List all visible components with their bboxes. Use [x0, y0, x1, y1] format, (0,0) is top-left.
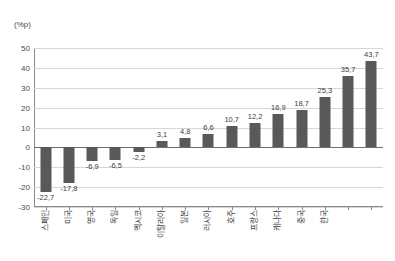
y-axis-tick-label: -30 [4, 203, 30, 212]
category-label-slot [336, 209, 359, 259]
bar-value-label: -6,5 [109, 161, 122, 170]
x-axis-category-label: 미국 [65, 210, 73, 224]
y-axis-tick-label: 30 [4, 83, 30, 92]
x-axis-category-label: 캐나다 [274, 210, 282, 231]
bar-slot[interactable]: 16,9 [267, 48, 290, 207]
bar-slot[interactable]: 18,7 [290, 48, 313, 207]
x-axis-category-label: 한국 [321, 210, 329, 224]
bar-value-label: 12,2 [248, 112, 263, 121]
category-label-slot: 독일 [104, 209, 127, 259]
bar[interactable] [180, 138, 191, 148]
y-axis-tick-label: 20 [4, 103, 30, 112]
bar[interactable] [226, 126, 237, 147]
bar[interactable] [63, 147, 74, 182]
x-axis-category-label: 호주 [228, 210, 236, 224]
bar-slot[interactable]: 35,7 [336, 48, 359, 207]
bar-slot[interactable]: 10,7 [220, 48, 243, 207]
bar-value-label: 10,7 [224, 115, 239, 124]
category-label-slot: 중국 [290, 209, 313, 259]
bar[interactable] [110, 147, 121, 160]
category-label-slot: 한국 [313, 209, 336, 259]
bar-slot[interactable]: -6,5 [104, 48, 127, 207]
y-axis-tick-label: 40 [4, 63, 30, 72]
x-axis-category-label: 러시아 [204, 210, 212, 231]
bar[interactable] [156, 141, 167, 147]
bar-slot[interactable]: -2,2 [127, 48, 150, 207]
bar[interactable] [273, 114, 284, 148]
category-label-slot: 영국 [81, 209, 104, 259]
bar[interactable] [366, 61, 377, 148]
bar-value-label: -17,8 [60, 184, 77, 193]
category-label-slot: 스페인 [34, 209, 57, 259]
x-axis-category-label: 영국 [88, 210, 96, 224]
bar-value-label: 43,7 [364, 50, 379, 59]
bar[interactable] [87, 147, 98, 161]
category-label-slot: 호주 [220, 209, 243, 259]
category-label-slot: 일본 [174, 209, 197, 259]
category-label-slot: 멕시코 [127, 209, 150, 259]
bar-chart: (%p) 50403020100-10-20-30 -22,7-17,8-6,9… [0, 0, 395, 261]
bar[interactable] [40, 147, 51, 192]
category-label-slot: 프랑스 [243, 209, 266, 259]
bar-slot[interactable]: -17,8 [57, 48, 80, 207]
x-axis-category-labels: 스페인미국영국독일멕시코이탈리아일본러시아호주프랑스캐나다중국한국 [34, 209, 383, 259]
bar-slot[interactable]: 12,2 [243, 48, 266, 207]
category-label-slot: 미국 [57, 209, 80, 259]
bar-value-label: 25,3 [318, 86, 333, 95]
bar-value-label: 4,8 [180, 127, 190, 136]
bar[interactable] [133, 147, 144, 151]
bar[interactable] [250, 123, 261, 147]
bar-value-label: -6,9 [86, 162, 99, 171]
y-axis-tick-label: 0 [4, 143, 30, 152]
bar[interactable] [296, 110, 307, 147]
bar-slot[interactable]: 4,8 [174, 48, 197, 207]
bar-slot[interactable]: 3,1 [150, 48, 173, 207]
bar-value-label: 16,9 [271, 103, 286, 112]
plot-area: 50403020100-10-20-30 -22,7-17,8-6,9-6,5-… [34, 48, 383, 207]
category-label-slot: 이탈리아 [150, 209, 173, 259]
bar-slot[interactable]: 6,6 [197, 48, 220, 207]
category-label-slot [360, 209, 383, 259]
bar-slot[interactable]: -6,9 [81, 48, 104, 207]
category-label-slot: 캐나다 [267, 209, 290, 259]
bar[interactable] [203, 134, 214, 147]
category-label-slot: 러시아 [197, 209, 220, 259]
bars-layer: -22,7-17,8-6,9-6,5-2,23,14,86,610,712,21… [34, 48, 383, 207]
y-axis-unit-caption: (%p) [14, 20, 31, 29]
bar[interactable] [319, 97, 330, 147]
bar-value-label: 18,7 [294, 99, 309, 108]
x-axis-category-label: 멕시코 [135, 210, 143, 231]
y-axis-tick-label: -20 [4, 183, 30, 192]
x-axis-category-label: 스페인 [42, 210, 50, 231]
bar-value-label: 6,6 [203, 123, 213, 132]
bar-value-label: 35,7 [341, 65, 356, 74]
x-axis-category-label: 독일 [111, 210, 119, 224]
bar-value-label: -2,2 [132, 153, 145, 162]
bar-value-label: -22,7 [37, 193, 54, 202]
bar-slot[interactable]: -22,7 [34, 48, 57, 207]
x-axis-category-label: 일본 [181, 210, 189, 224]
y-axis-tick-label: -10 [4, 163, 30, 172]
bar[interactable] [343, 76, 354, 147]
x-axis-category-label: 이탈리아 [158, 210, 166, 238]
y-axis-tick-label: 50 [4, 44, 30, 53]
bar-value-label: 3,1 [157, 130, 167, 139]
x-axis-category-label: 프랑스 [251, 210, 259, 231]
bar-slot[interactable]: 43,7 [360, 48, 383, 207]
y-axis-tick-label: 10 [4, 123, 30, 132]
x-axis-category-label: 중국 [298, 210, 306, 224]
bar-slot[interactable]: 25,3 [313, 48, 336, 207]
